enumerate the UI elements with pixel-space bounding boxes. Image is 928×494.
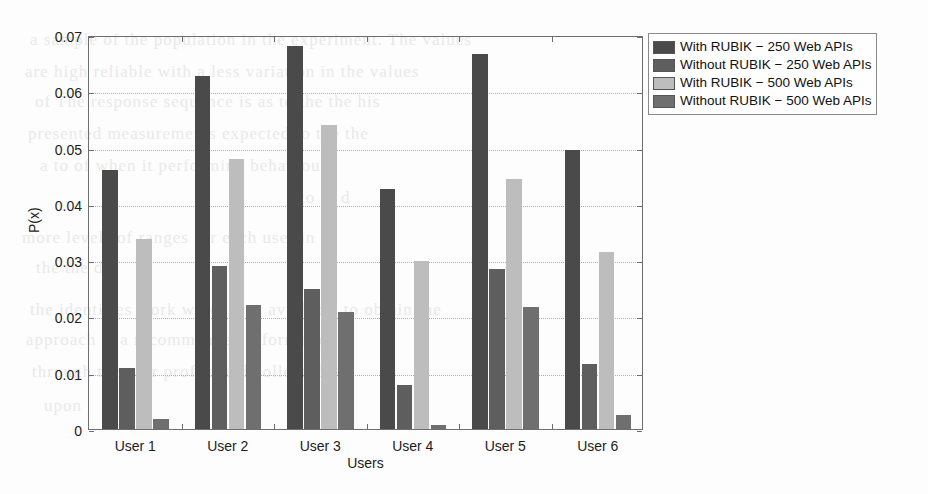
bar-series-group (89, 37, 642, 429)
y-axis-tick (637, 431, 642, 432)
y-axis-tick-label: 0.02 (55, 310, 82, 326)
legend-color-swatch (653, 41, 675, 54)
legend-item: Without RUBIK − 500 Web APIs (653, 92, 871, 110)
bar (616, 415, 632, 429)
bar (397, 385, 413, 429)
legend-item: With RUBIK − 250 Web APIs (653, 38, 871, 56)
y-axis-label: P(x) (26, 207, 42, 233)
bar (304, 289, 320, 429)
bar (414, 261, 430, 429)
legend-color-swatch (653, 59, 675, 72)
chart-legend: With RUBIK − 250 Web APIsWithout RUBIK −… (648, 33, 877, 115)
bar (431, 425, 447, 430)
bar-chart-figure: P(x) Users 00.010.020.030.040.050.060.07… (0, 0, 928, 494)
legend-item-label: With RUBIK − 250 Web APIs (680, 40, 853, 54)
y-axis-tick-label: 0 (74, 423, 82, 439)
x-axis-tick-label: User 1 (115, 438, 156, 454)
bar (195, 76, 211, 429)
bar (338, 312, 354, 429)
bar (321, 125, 337, 429)
bar (489, 269, 505, 429)
bar (119, 368, 135, 429)
x-axis-tick-label: User 4 (392, 438, 433, 454)
plot-area: 00.010.020.030.040.050.060.07 User 1User… (88, 36, 643, 430)
legend-color-swatch (653, 77, 675, 90)
bar (582, 364, 598, 429)
y-axis-tick-label: 0.03 (55, 254, 82, 270)
bar (506, 179, 522, 429)
bar (153, 419, 169, 429)
bar (599, 252, 615, 429)
y-axis-tick-label: 0.07 (55, 29, 82, 45)
y-axis-tick (89, 431, 94, 432)
legend-item: With RUBIK − 500 Web APIs (653, 74, 871, 92)
bar (212, 266, 228, 429)
legend-item-label: Without RUBIK − 500 Web APIs (680, 94, 871, 108)
legend-item: Without RUBIK − 250 Web APIs (653, 56, 871, 74)
y-axis-tick-label: 0.05 (55, 142, 82, 158)
x-axis-tick-label: User 6 (577, 438, 618, 454)
legend-item-label: Without RUBIK − 250 Web APIs (680, 58, 871, 72)
bar (136, 239, 152, 429)
bar (287, 46, 303, 429)
bar (246, 305, 262, 429)
bar (565, 150, 581, 429)
y-axis-tick-label: 0.01 (55, 367, 82, 383)
legend-item-label: With RUBIK − 500 Web APIs (680, 76, 853, 90)
x-axis-tick-label: User 3 (300, 438, 341, 454)
x-axis-tick-label: User 2 (207, 438, 248, 454)
y-axis-tick-label: 0.04 (55, 198, 82, 214)
x-axis-tick-label: User 5 (485, 438, 526, 454)
bar (472, 54, 488, 429)
x-axis-label: Users (88, 455, 643, 471)
bar (102, 170, 118, 429)
bar (523, 307, 539, 429)
bar (380, 189, 396, 429)
bar (229, 159, 245, 429)
y-axis-tick-label: 0.06 (55, 85, 82, 101)
legend-color-swatch (653, 95, 675, 108)
